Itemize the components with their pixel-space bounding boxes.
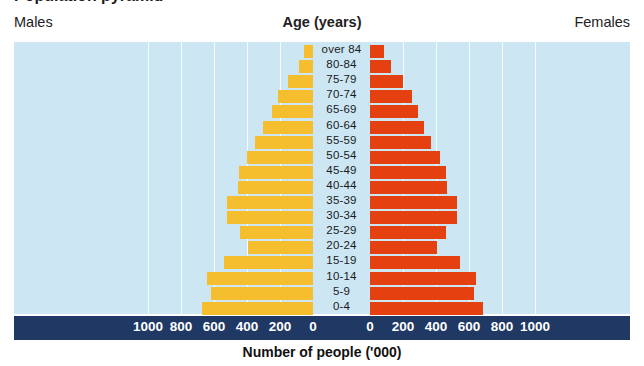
female-bar <box>370 272 476 285</box>
x-axis-tick-left: 0 <box>309 319 317 334</box>
female-bar <box>370 181 447 194</box>
female-bar <box>370 136 431 149</box>
x-axis-tick-right: 200 <box>392 319 415 334</box>
x-axis-tick-left: 200 <box>269 319 292 334</box>
female-bar <box>370 166 446 179</box>
female-bar <box>370 45 384 58</box>
x-axis-caption: Number of people ('000) <box>0 344 644 360</box>
x-axis-tick-right: 0 <box>366 319 374 334</box>
x-axis-tick-left: 1000 <box>133 319 163 334</box>
x-axis-tick-right: 400 <box>425 319 448 334</box>
x-axis-tick-right: 800 <box>491 319 514 334</box>
x-axis-tick-left: 400 <box>236 319 259 334</box>
pyramid-plot-area: over 8480-8475-7970-7465-6960-6455-5950-… <box>14 42 630 314</box>
female-bar <box>370 256 460 269</box>
female-bar <box>370 121 424 134</box>
x-axis-scale-bar: 1000800600400200002004006008001000 <box>14 316 630 340</box>
female-bar <box>370 287 474 300</box>
x-axis-tick-right: 1000 <box>520 319 550 334</box>
males-legend-label: Males <box>14 14 53 30</box>
x-axis-tick-left: 800 <box>170 319 193 334</box>
female-bar <box>370 196 457 209</box>
female-bar <box>370 226 446 239</box>
female-bar <box>370 105 418 118</box>
x-axis-tick-left: 600 <box>203 319 226 334</box>
female-bar <box>370 241 437 254</box>
female-bar <box>370 90 412 103</box>
cropped-title-text: Population pyramid <box>14 0 163 5</box>
cropped-title: Population pyramid <box>0 0 644 9</box>
chart-header: Males Age (years) Females <box>0 14 644 42</box>
female-bar <box>370 151 440 164</box>
x-axis-tick-right: 600 <box>458 319 481 334</box>
female-bar <box>370 75 403 88</box>
females-legend-label: Females <box>574 14 630 30</box>
age-axis-title: Age (years) <box>283 14 362 30</box>
female-bar <box>370 302 483 315</box>
female-bar <box>370 211 457 224</box>
female-bar <box>370 60 391 73</box>
